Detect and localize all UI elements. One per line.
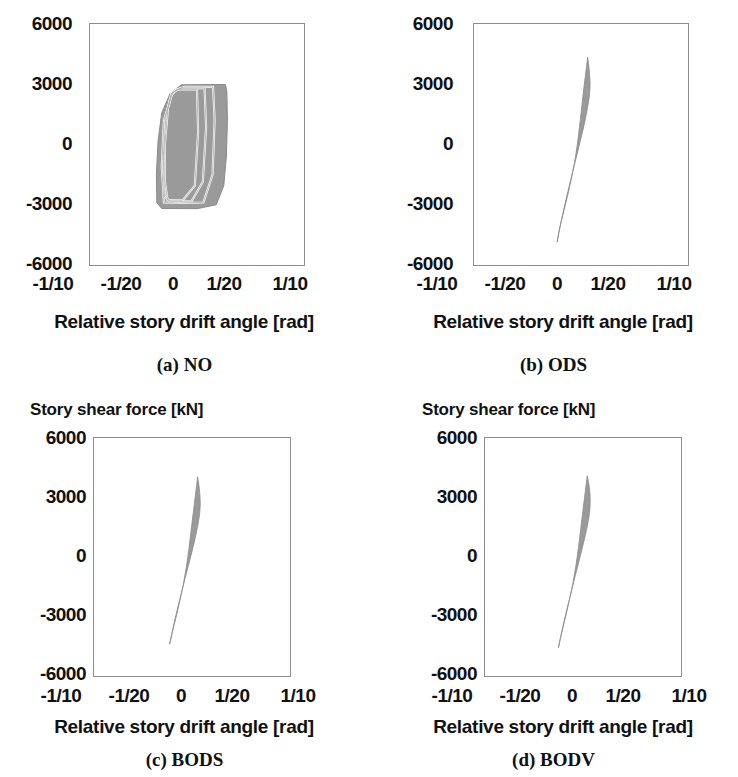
panel-b-xtick-1-20: 1/20: [574, 274, 642, 293]
panel-d-ytick-3000: 3000: [401, 487, 477, 506]
panel-a-ytick-n6000: -6000: [0, 254, 72, 273]
panel-c-trace: [94, 438, 290, 676]
panel-c-xtick-0: 0: [164, 686, 198, 705]
panel-c-ytick-6000: 6000: [10, 428, 86, 447]
panel-c-plot-area: [93, 437, 291, 677]
panel-c-xtick-n1-10: -1/10: [28, 686, 94, 705]
panel-a-xtick-1-20: 1/20: [190, 274, 258, 293]
panel-a-ytick-n3000: -3000: [0, 194, 72, 213]
panel-a-xtick-1-10: 1/10: [258, 274, 322, 293]
panel-b-ytick-n3000: -3000: [381, 194, 453, 213]
panel-a-xticks: -1/10 -1/20 0 1/20 1/10: [20, 274, 326, 293]
panel-c-xticks: -1/10 -1/20 0 1/20 1/10: [28, 686, 334, 705]
panel-b-trace: [474, 24, 688, 265]
panel-a-xtick-n1-10: -1/10: [20, 274, 86, 293]
panel-b-ytick-3000: 3000: [381, 74, 453, 93]
panel-d-caption: (d) BODV: [369, 750, 738, 769]
panel-b-xtick-n1-10: -1/10: [404, 274, 470, 293]
panel-b-xaxis-title: Relative story drift angle [rad]: [393, 312, 733, 331]
panel-c-ytick-n6000: -6000: [10, 664, 86, 683]
panel-a-xtick-0: 0: [156, 274, 190, 293]
panel-d-ytick-0: 0: [401, 546, 477, 565]
panel-d-yaxis-title: Story shear force [kN]: [422, 400, 595, 420]
panel-b-xticks: -1/10 -1/20 0 1/20 1/10: [404, 274, 710, 293]
hysteresis-figure: 6000 3000 0 -3000 -6000 -1/10 -1/20 0 1: [0, 0, 738, 777]
panel-d-xticks: -1/10 -1/20 0 1/20 1/10: [419, 686, 725, 705]
panel-a-xaxis-title: Relative story drift angle [rad]: [14, 312, 354, 331]
panel-c-xtick-1-10: 1/10: [266, 686, 330, 705]
panel-b-ytick-n6000: -6000: [381, 254, 453, 273]
panel-b-xtick-n1-20: -1/20: [470, 274, 540, 293]
panel-c-caption: (c) BODS: [0, 750, 369, 769]
panel-d-xtick-n1-20: -1/20: [485, 686, 555, 705]
panel-c: Story shear force [kN] 6000 3000 0 -3000…: [0, 390, 369, 777]
panel-b-plot-area: [473, 23, 689, 266]
panel-d-ytick-n3000: -3000: [401, 605, 477, 624]
panel-b-caption: (b) ODS: [369, 355, 738, 374]
panel-c-ytick-0: 0: [10, 546, 86, 565]
panel-d-ytick-n6000: -6000: [401, 664, 477, 683]
panel-c-ytick-3000: 3000: [10, 487, 86, 506]
panel-c-xtick-n1-20: -1/20: [94, 686, 164, 705]
panel-b-xtick-0: 0: [540, 274, 574, 293]
panel-b-ytick-6000: 6000: [381, 14, 453, 33]
panel-d-trace: [485, 438, 681, 676]
panel-a-ytick-0: 0: [0, 134, 72, 153]
panel-b: 6000 3000 0 -3000 -6000 -1/10 -1/20 0 1/…: [369, 0, 738, 390]
panel-d-xtick-0: 0: [555, 686, 589, 705]
panel-c-yaxis-title: Story shear force [kN]: [30, 400, 203, 420]
panel-b-xtick-1-10: 1/10: [642, 274, 706, 293]
panel-a: 6000 3000 0 -3000 -6000 -1/10 -1/20 0 1: [0, 0, 369, 390]
panel-d-xtick-n1-10: -1/10: [419, 686, 485, 705]
panel-d-ytick-6000: 6000: [401, 428, 477, 447]
panel-c-xtick-1-20: 1/20: [198, 686, 266, 705]
panel-a-xtick-n1-20: -1/20: [86, 274, 156, 293]
panel-c-ytick-n3000: -3000: [10, 605, 86, 624]
panel-a-plot-area: [89, 23, 305, 266]
panel-d-plot-area: [484, 437, 682, 677]
panel-a-caption: (a) NO: [0, 355, 369, 374]
panel-a-trace: [90, 24, 304, 265]
panel-d-xaxis-title: Relative story drift angle [rad]: [393, 717, 733, 736]
panel-d-xtick-1-20: 1/20: [589, 686, 657, 705]
panel-d-xtick-1-10: 1/10: [657, 686, 721, 705]
panel-b-ytick-0: 0: [381, 134, 453, 153]
panel-d: Story shear force [kN] 6000 3000 0 -3000…: [369, 390, 738, 777]
panel-c-xaxis-title: Relative story drift angle [rad]: [14, 717, 354, 736]
panel-a-ytick-3000: 3000: [0, 74, 72, 93]
panel-a-ytick-6000: 6000: [0, 14, 72, 33]
